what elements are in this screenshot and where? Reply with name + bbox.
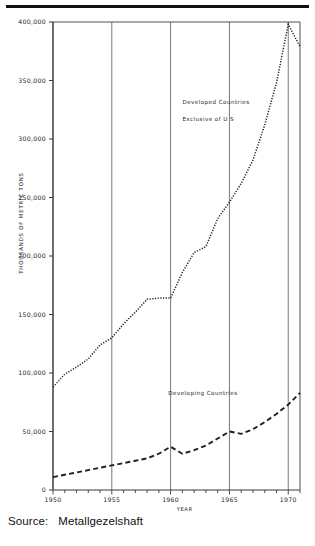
y-tick-label-zero: 0 <box>2 486 46 493</box>
chart-figure: THOUSANDS OF METRIC TONS 50,000100,00015… <box>0 8 315 508</box>
source-label: Source: <box>8 515 48 527</box>
y-tick-label: 150,000 <box>2 311 46 318</box>
x-tick-label: 1950 <box>38 496 68 503</box>
series-line-1 <box>53 24 300 387</box>
x-tick-label: 1970 <box>273 496 303 503</box>
y-tick-label: 300,000 <box>2 135 46 142</box>
series-line-2 <box>53 393 300 477</box>
x-tick-label: 1955 <box>97 496 127 503</box>
figure-page: THOUSANDS OF METRIC TONS 50,000100,00015… <box>0 0 315 546</box>
line-chart-canvas <box>0 8 315 508</box>
y-axis-title: THOUSANDS OF METRIC TONS <box>18 158 24 288</box>
x-tick-label: 1965 <box>214 496 244 503</box>
y-tick-label: 50,000 <box>2 428 46 435</box>
y-tick-label: 400,000 <box>2 18 46 25</box>
y-tick-label: 250,000 <box>2 194 46 201</box>
source-value: Metallgezelshaft <box>58 515 143 527</box>
source-caption: Source:Metallgezelshaft <box>8 515 143 527</box>
y-tick-label: 200,000 <box>2 252 46 259</box>
chart-annotation: Exclusive of U S <box>182 115 234 124</box>
y-tick-label: 100,000 <box>2 369 46 376</box>
chart-annotation: Developing Countries <box>168 389 237 398</box>
x-axis-title: YEAR <box>165 506 205 512</box>
chart-annotation: Developed Countries <box>182 98 249 107</box>
x-tick-label: 1960 <box>156 496 186 503</box>
chart-plot-area <box>49 22 300 495</box>
y-tick-label: 350,000 <box>2 77 46 84</box>
